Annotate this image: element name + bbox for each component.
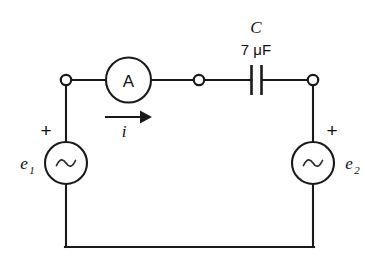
terminal-node-left [61,75,71,85]
capacitor-value-label: 7 μF [241,41,271,58]
source-left-subscript: 1 [29,164,35,176]
circuit-diagram: A C 7 μF i + e 1 + e 2 [0,0,378,259]
source-left-polarity-label: + [40,120,51,141]
current-label: i [122,122,127,141]
terminal-node-mid [194,75,204,85]
ammeter-label: A [123,72,135,91]
source-right-label: e [345,154,353,173]
terminal-node-right [308,75,318,85]
current-arrow-head [140,111,152,124]
current-arrow: i [105,111,152,142]
ac-voltage-source-right: + e 2 [292,120,360,184]
ac-voltage-source-left: + e 1 [20,120,87,184]
source-right-polarity-label: + [326,120,337,141]
ammeter: A [106,58,151,103]
source-left-label: e [20,154,28,173]
capacitor: C 7 μF [241,18,271,95]
source-right-subscript: 2 [354,164,360,176]
capacitor-designator-label: C [250,18,262,37]
